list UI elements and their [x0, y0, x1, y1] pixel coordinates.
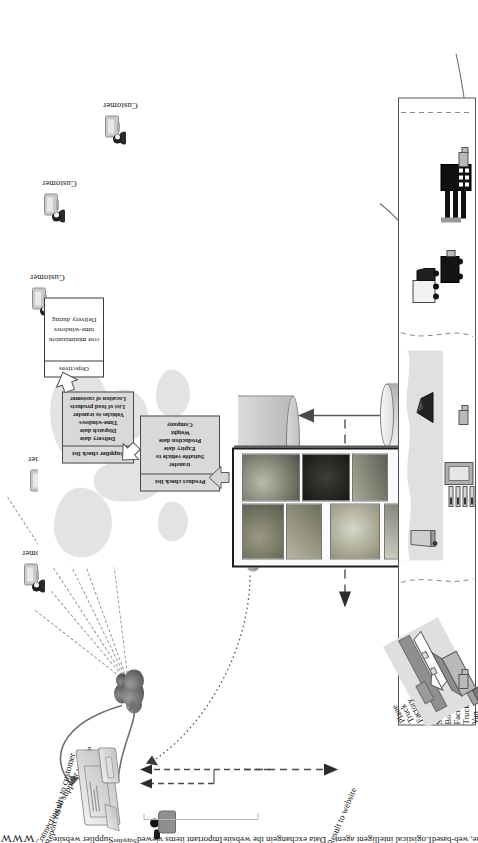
food-photo-3 [330, 503, 380, 559]
diagram-stage: Customer Customer Customer Customer Cust… [0, 0, 478, 843]
food-photo-1 [242, 503, 284, 559]
figure-canvas: Customer Customer Customer Customer Cust… [0, 0, 478, 843]
transport-modes-panel: Plane Truck Factory Sea Shi [398, 97, 476, 725]
food-photo-6 [302, 453, 350, 501]
connector-vehicles [399, 98, 475, 724]
food-photo-7 [352, 453, 388, 501]
